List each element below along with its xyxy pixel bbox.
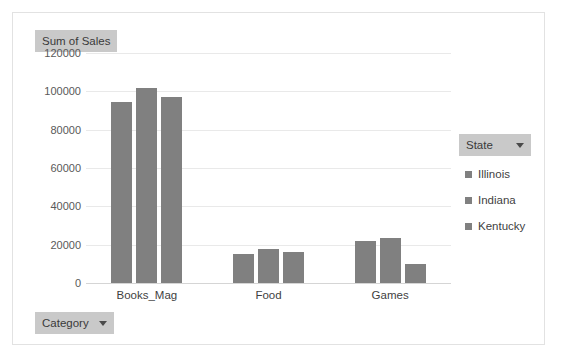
legend-field-button[interactable]: State [459, 134, 531, 156]
y-axis-tick-label: 80000 [50, 124, 81, 136]
bar-cluster [86, 53, 208, 283]
chevron-down-icon [99, 321, 107, 326]
bar[interactable] [258, 249, 279, 284]
bar-cluster [329, 53, 451, 283]
x-axis-tick-label: Games [372, 289, 409, 301]
x-axis: Books_MagFoodGames [86, 289, 451, 309]
legend-field-label: State [466, 137, 493, 153]
legend-item: Indiana [465, 187, 545, 213]
y-axis-tick-label: 0 [75, 277, 81, 289]
y-axis-tick-label: 100000 [44, 85, 81, 97]
x-axis-baseline [86, 283, 451, 284]
chevron-down-icon [516, 143, 524, 148]
bar[interactable] [233, 254, 254, 283]
legend-swatch-icon [465, 171, 472, 178]
bar[interactable] [111, 102, 132, 283]
legend-item-label: Indiana [478, 194, 516, 206]
bar-cluster [208, 53, 330, 283]
y-axis-tick-label: 120000 [44, 47, 81, 59]
category-field-label: Category [42, 315, 89, 331]
plot-area [86, 53, 451, 284]
legend-item-label: Illinois [478, 168, 510, 180]
legend-swatch-icon [465, 223, 472, 230]
legend-item: Illinois [465, 161, 545, 187]
y-axis-tick-label: 40000 [50, 200, 81, 212]
x-axis-tick-label: Books_Mag [116, 289, 177, 301]
bar[interactable] [161, 97, 182, 283]
legend-item-label: Kentucky [478, 220, 525, 232]
pivot-chart-frame: Sum of Sales 120000100000800006000040000… [12, 12, 545, 345]
bar[interactable] [283, 252, 304, 283]
legend-swatch-icon [465, 197, 472, 204]
y-axis-tick-label: 60000 [50, 162, 81, 174]
category-field-button[interactable]: Category [35, 312, 114, 334]
legend: IllinoisIndianaKentucky [465, 161, 545, 239]
bar[interactable] [136, 88, 157, 283]
y-axis-tick-label: 20000 [50, 239, 81, 251]
x-axis-tick-label: Food [255, 289, 281, 301]
bar[interactable] [380, 238, 401, 283]
bar[interactable] [405, 264, 426, 283]
bar[interactable] [355, 241, 376, 283]
legend-item: Kentucky [465, 213, 545, 239]
y-axis: 120000100000800006000040000200000 [25, 53, 81, 284]
